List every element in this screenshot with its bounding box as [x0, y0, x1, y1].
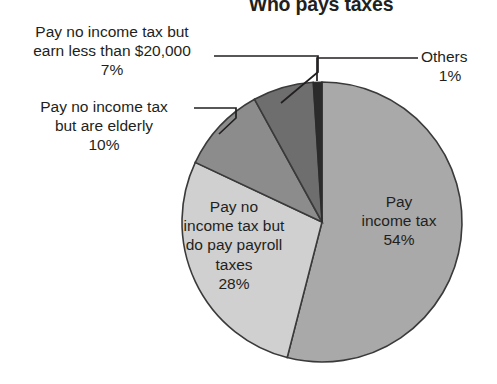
slice-label-line-4: taxes — [166, 255, 302, 274]
pie-chart: Who pays taxes Pay no income tax but ear… — [0, 0, 497, 384]
slice-label-line-2: income tax but — [166, 216, 302, 235]
callout-line-1: Others — [421, 48, 495, 67]
slice-label-percent: 28% — [166, 274, 302, 293]
callout-line-1: Pay no income tax but — [6, 23, 218, 42]
slice-label-line-3: do pay payroll — [166, 235, 302, 254]
callout-line-2: earn less than $20,000 — [6, 42, 218, 61]
callout-line-1: Pay no income tax — [4, 98, 204, 117]
callout-label-others: Others 1% — [421, 48, 495, 86]
slice-label-percent: 54% — [336, 230, 462, 249]
slice-label-line-1: Pay no — [166, 197, 302, 216]
callout-percent: 1% — [421, 67, 479, 86]
leader-line-others — [317, 58, 418, 81]
slice-label-pay-income-tax: Pay income tax 54% — [336, 192, 462, 250]
callout-label-elderly: Pay no income tax but are elderly 10% — [4, 98, 204, 155]
callout-percent: 7% — [6, 61, 218, 80]
slice-label-pay-payroll-taxes: Pay no income tax but do pay payroll tax… — [166, 197, 302, 293]
callout-label-earn-less-than-20000: Pay no income tax but earn less than $20… — [6, 23, 218, 80]
callout-line-2: but are elderly — [4, 117, 204, 136]
slice-label-line-2: income tax — [336, 211, 462, 230]
callout-percent: 10% — [4, 136, 204, 155]
slice-label-line-1: Pay — [336, 192, 462, 211]
